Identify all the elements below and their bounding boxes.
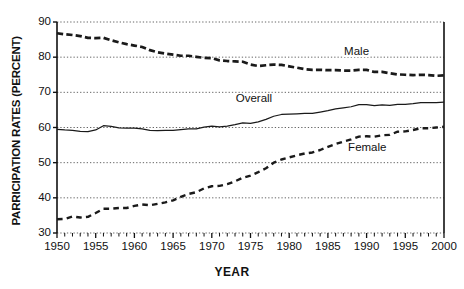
x-axis-title: YEAR bbox=[0, 265, 464, 279]
axis-ticks bbox=[53, 22, 444, 238]
series-label-male: Male bbox=[343, 46, 370, 58]
series-label-female: Female bbox=[347, 142, 387, 154]
series-line-male bbox=[57, 33, 444, 76]
series-label-overall: Overall bbox=[235, 93, 273, 105]
data-series bbox=[57, 33, 444, 219]
plot-area bbox=[0, 0, 464, 289]
chart-figure: PARRICIPATION RATES (PERCENT) 3040506070… bbox=[0, 0, 464, 289]
series-line-overall bbox=[57, 102, 444, 132]
